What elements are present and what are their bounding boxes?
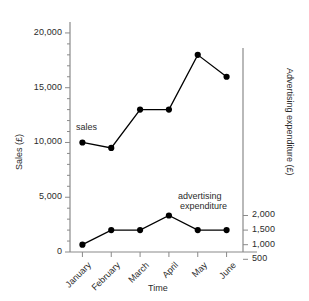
data-point-advertising-expenditure: [79, 242, 85, 248]
y-axis-left-tick-label: 20,000: [0, 27, 62, 37]
data-point-advertising-expenditure: [223, 227, 229, 233]
series-line-advertising-expenditure: [82, 215, 226, 244]
data-point-sales: [166, 107, 172, 113]
y-axis-left-tick-label: 10,000: [0, 136, 62, 146]
series-line-sales: [82, 55, 226, 148]
data-point-sales: [137, 107, 143, 113]
data-point-sales: [108, 145, 114, 151]
data-point-sales: [195, 52, 201, 58]
y-axis-left-tick-label: 15,000: [0, 82, 62, 92]
data-point-advertising-expenditure: [108, 227, 114, 233]
data-point-advertising-expenditure: [195, 227, 201, 233]
y-axis-right-tick-label: 500: [252, 253, 267, 263]
y-axis-right-tick-label: 2,000: [252, 209, 275, 219]
chart-canvas: Sales (£) Advertising expenditure (£) Ti…: [0, 0, 309, 301]
series-label-advertising-line2: expenditure: [180, 201, 227, 211]
series-label-sales: sales: [76, 122, 97, 132]
data-point-sales: [223, 74, 229, 80]
y-axis-right-tick-label: 1,500: [252, 224, 275, 234]
y-axis-right-tick-label: 1,000: [252, 239, 275, 249]
y-axis-left-tick-label: 0: [0, 246, 62, 256]
y-axis-left-tick-label: 5,000: [0, 191, 62, 201]
series-label-advertising-line1: advertising: [178, 191, 222, 201]
y-axis-right-title: Advertising expenditure (£): [285, 68, 295, 176]
data-point-advertising-expenditure: [166, 212, 172, 218]
data-point-advertising-expenditure: [137, 227, 143, 233]
data-point-sales: [79, 139, 85, 145]
